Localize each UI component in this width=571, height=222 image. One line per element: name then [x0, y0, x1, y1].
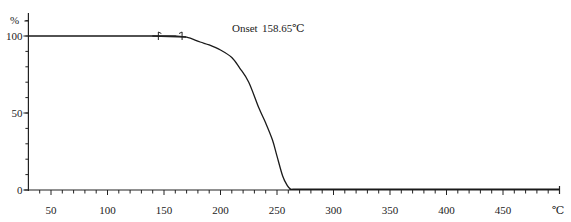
- y-axis-unit-label: %: [10, 14, 19, 26]
- x-axis-unit-label: ℃: [552, 204, 564, 216]
- ticks: [23, 21, 548, 195]
- x-tick-label: 50: [46, 204, 58, 216]
- y-tick-label: 100: [6, 30, 23, 42]
- tga-chart: 50100150200250300350400450050100 % ℃ Ons…: [0, 0, 571, 222]
- tick-labels: 50100150200250300350400450050100: [6, 30, 512, 216]
- y-tick-label: 50: [11, 107, 23, 119]
- x-tick-label: 100: [99, 204, 116, 216]
- onset-label: Onset: [232, 22, 258, 34]
- axes: [24, 13, 559, 194]
- x-tick-label: 300: [325, 204, 342, 216]
- x-tick-label: 350: [382, 204, 399, 216]
- weight-loss-curve: [28, 36, 559, 189]
- y-tick-label: 0: [17, 184, 23, 196]
- x-tick-label: 450: [495, 204, 512, 216]
- x-tick-label: 250: [269, 204, 286, 216]
- onset-value: 158.65℃: [262, 22, 305, 34]
- x-tick-label: 150: [156, 204, 173, 216]
- x-tick-label: 200: [212, 204, 229, 216]
- x-tick-label: 400: [438, 204, 455, 216]
